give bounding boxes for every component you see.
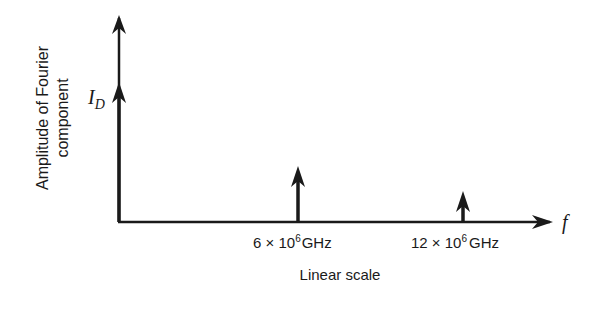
fourier-spectrum-diagram: Amplitude of Fourier component ID f 6 × … — [0, 0, 600, 309]
y-axis-label-line2: component — [54, 78, 71, 158]
dc-impulse — [112, 82, 126, 222]
y-axis-label-line1: Amplitude of Fourier — [34, 45, 51, 190]
tick-label-6e6: 6 × 106GHz — [253, 233, 332, 251]
scale-caption: Linear scale — [300, 266, 381, 283]
y-axis-label: Amplitude of Fourier component — [34, 45, 71, 190]
tick-label-12e6: 12 × 106GHz — [411, 233, 499, 251]
dc-component-label: ID — [87, 86, 105, 112]
x-axis — [118, 215, 553, 229]
impulse-fundamental — [291, 166, 305, 222]
impulse-second-harmonic — [456, 191, 470, 222]
x-axis-symbol: f — [562, 211, 570, 234]
